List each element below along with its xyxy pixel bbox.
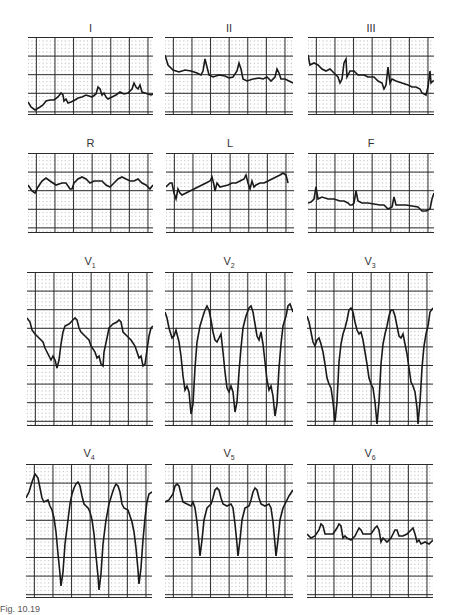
lead-V4: V4 <box>26 447 152 599</box>
lead-V2: V2 <box>165 255 293 427</box>
ecg-grid <box>28 153 153 233</box>
ecg-grid <box>307 272 433 426</box>
ecg-strip <box>308 37 434 115</box>
ecg-grid <box>28 37 153 115</box>
ecg-strip <box>27 272 153 426</box>
lead-F: F <box>308 137 434 235</box>
ecg-grid <box>308 37 434 115</box>
ecg-strip <box>165 272 293 426</box>
ecg-strip <box>166 153 294 233</box>
lead-label: L <box>166 137 294 149</box>
ecg-strip <box>165 464 293 598</box>
ecg-grid <box>308 153 434 233</box>
lead-label: II <box>165 22 293 34</box>
figure-caption: Fig. 10.19 <box>0 604 40 614</box>
lead-V1: V1 <box>27 255 153 427</box>
lead-V3: V3 <box>307 255 433 427</box>
ecg-grid <box>165 37 293 115</box>
lead-V6: V6 <box>307 447 433 599</box>
ecg-strip <box>28 153 153 233</box>
lead-V5: V5 <box>165 447 293 599</box>
ecg-strip <box>165 37 293 115</box>
lead-R: R <box>28 137 153 235</box>
lead-III: III <box>308 22 434 117</box>
lead-L: L <box>166 137 294 235</box>
ecg-strip <box>28 37 153 115</box>
lead-label: I <box>28 22 153 34</box>
ecg-strip <box>307 464 433 598</box>
lead-II: II <box>165 22 293 117</box>
lead-label: V3 <box>307 255 433 269</box>
lead-label: V1 <box>27 255 153 269</box>
lead-label: V6 <box>307 447 433 461</box>
lead-I: I <box>28 22 153 117</box>
ecg-strip <box>308 153 434 233</box>
lead-label: R <box>28 137 153 149</box>
lead-label: III <box>308 22 434 34</box>
ecg-strip <box>307 272 433 426</box>
lead-label: V4 <box>26 447 152 461</box>
ecg-strip <box>26 464 152 598</box>
lead-label: V5 <box>165 447 293 461</box>
lead-label: V2 <box>165 255 293 269</box>
lead-label: F <box>308 137 434 149</box>
